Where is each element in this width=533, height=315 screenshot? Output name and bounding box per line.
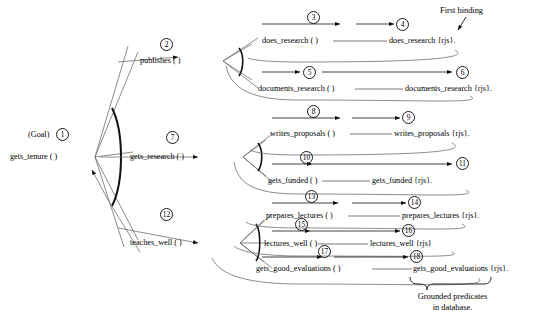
grounded-predicates-annotation: Grounded predicates in database.	[400, 292, 505, 313]
node-number-14: 14	[408, 196, 421, 209]
proof-tree-diagram: (Goal) 1 gets_tenure ( ) 2 publishes ( )…	[0, 0, 533, 315]
bound-lectures-well: lectures_well {rjs}	[370, 240, 432, 248]
node-number-1: 1	[56, 128, 69, 141]
bound-does-research: does_research {rjs}.	[389, 37, 456, 45]
branch-label-teaches-well: teaches_well ( )	[130, 239, 182, 247]
node-number-16: 16	[402, 224, 415, 237]
first-binding-annotation: First binding	[440, 6, 483, 17]
bound-prepares-lectures: prepares_lectures {rjs}.	[402, 212, 479, 220]
node-number-3: 3	[307, 11, 320, 24]
bound-writes-proposals: writes_proposals {rjs}.	[394, 130, 470, 138]
subgoal-does-research: does_research ( )	[262, 37, 318, 45]
node-number-13: 13	[305, 190, 318, 203]
branch-label-publishes: publishes ( )	[140, 57, 180, 65]
bound-documents-research: documents_research {rjs}.	[405, 85, 492, 93]
and-arc-gets-research	[258, 143, 262, 171]
grounded-predicates-line1: Grounded predicates	[400, 292, 505, 303]
grounded-predicates-line2: in database.	[400, 303, 505, 314]
node-number-15: 15	[295, 218, 308, 231]
node-number-9: 9	[402, 111, 415, 124]
node-number-2: 2	[160, 38, 173, 51]
node-number-10: 10	[300, 151, 313, 164]
node-number-18: 18	[410, 250, 423, 263]
subgoal-gets-funded: gets_funded ( )	[268, 177, 318, 185]
branch-label-gets-research: gets_research ( )	[130, 153, 184, 161]
node-number-5: 5	[303, 66, 316, 79]
goal-label: gets_tenure ( )	[10, 153, 57, 161]
subgoal-gets-good-evaluations: gets_good_evaluations ( )	[256, 265, 341, 273]
subgoal-documents-research: documents_research ( )	[258, 85, 334, 93]
subgoal-lectures-well: lectures_well ( )	[264, 240, 317, 248]
goal-tag: (Goal)	[28, 131, 49, 139]
node-number-8: 8	[307, 105, 320, 118]
subgoal-writes-proposals: writes_proposals ( )	[270, 130, 335, 138]
first-binding-pointer	[458, 17, 466, 30]
bound-gets-funded: gets_funded {rjs}.	[372, 177, 432, 185]
node-number-12: 12	[160, 208, 173, 221]
node-number-7: 7	[166, 131, 179, 144]
node-number-4: 4	[396, 18, 409, 31]
node-number-6: 6	[456, 66, 469, 79]
node-number-17: 17	[318, 245, 331, 258]
node-number-11: 11	[456, 157, 469, 170]
bound-gets-good-evaluations: gets_good_evaluations {rjs}.	[413, 265, 508, 273]
